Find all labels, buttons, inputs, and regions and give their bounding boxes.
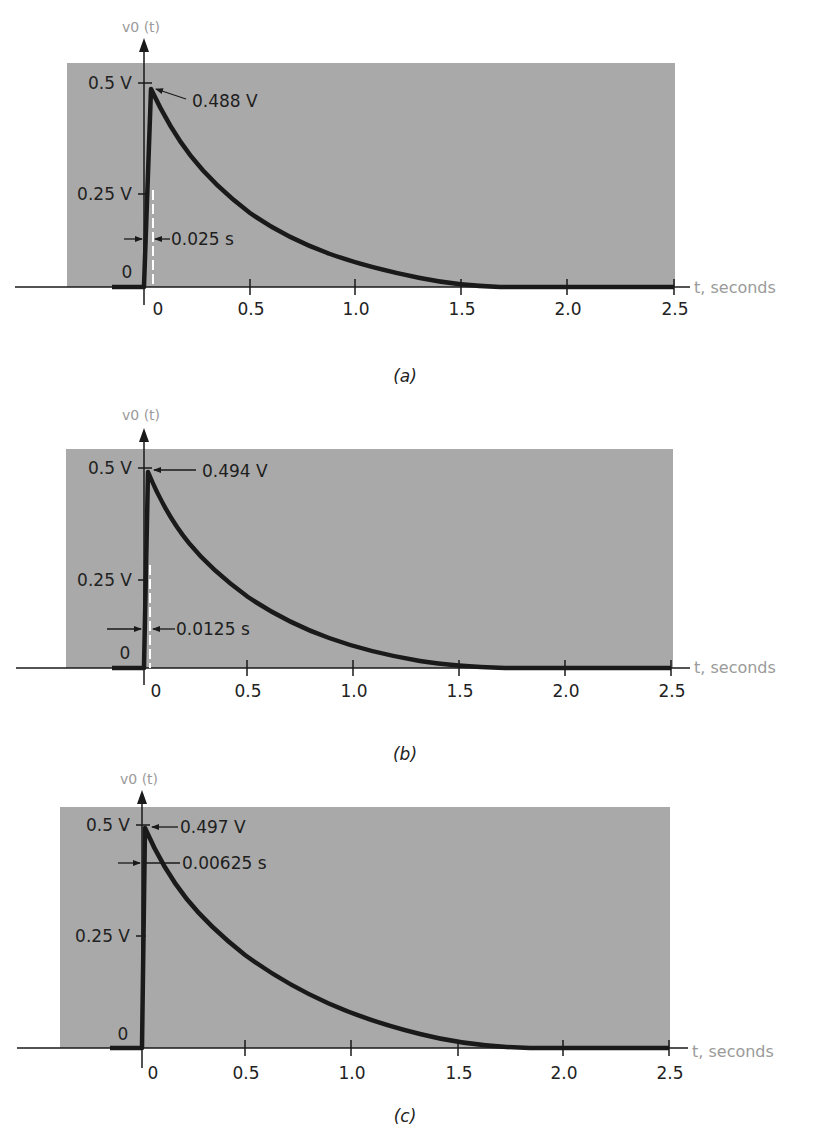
x-tick-label: 0 (151, 681, 162, 701)
panel-c: v0 (t) 0.5 V 0.25 V 0 0 0.5 1.0 1.5 2.0 … (17, 771, 774, 1126)
x-tick-label: 2.0 (552, 681, 579, 701)
y-tick-label: 0.5 V (88, 458, 132, 478)
panel-caption: (b) (393, 744, 417, 764)
y-tick-label: 0.25 V (77, 184, 132, 204)
x-tick-label: 1.0 (338, 1063, 365, 1083)
x-tick-label: 1.0 (342, 299, 369, 319)
x-tick-label: 0 (153, 299, 164, 319)
y-tick-label: 0.25 V (75, 926, 130, 946)
panel-caption: (a) (393, 366, 417, 386)
x-tick-label: 0.5 (237, 299, 264, 319)
x-tick-label: 0.5 (234, 681, 261, 701)
x-tick-label: 2.0 (550, 1063, 577, 1083)
y-axis-title: v0 (t) (122, 407, 160, 423)
y-tick-label: 0 (120, 643, 131, 663)
x-axis-title: t, seconds (692, 1042, 774, 1061)
panel-caption: (c) (394, 1106, 417, 1126)
peak-label: 0.497 V (180, 817, 246, 837)
plot-background (66, 449, 673, 668)
plot-background (67, 63, 675, 287)
x-tick-label: 2.5 (658, 681, 685, 701)
y-axis-arrow-icon (139, 428, 149, 442)
y-axis-title: v0 (t) (120, 771, 158, 787)
y-tick-label: 0 (118, 1024, 129, 1044)
y-axis-title: v0 (t) (122, 19, 160, 35)
x-tick-label: 1.0 (340, 681, 367, 701)
peak-label: 0.494 V (202, 461, 268, 481)
x-tick-label: 2.0 (554, 299, 581, 319)
y-tick-label: 0 (122, 262, 133, 282)
pulse-width-label: 0.00625 s (182, 853, 267, 873)
x-tick-label: 1.5 (448, 299, 475, 319)
x-tick-label: 0 (148, 1063, 159, 1083)
y-tick-label: 0.5 V (88, 73, 132, 93)
pulse-width-label: 0.0125 s (176, 619, 250, 639)
x-tick-label: 0.5 (232, 1063, 259, 1083)
x-axis-title: t, seconds (694, 278, 776, 297)
y-axis-arrow-icon (137, 790, 147, 804)
y-axis-arrow-icon (139, 38, 149, 52)
x-tick-label: 2.5 (656, 1063, 683, 1083)
peak-label: 0.488 V (192, 91, 258, 111)
y-tick-label: 0.5 V (86, 815, 130, 835)
y-tick-label: 0.25 V (77, 570, 132, 590)
x-tick-label: 2.5 (661, 299, 688, 319)
pulse-width-label: 0.025 s (171, 229, 234, 249)
panel-b: v0 (t) 0.5 V 0.25 V 0 0 0.5 1.0 1.5 2.0 … (16, 407, 776, 764)
panel-a: v0 (t) 0.5 V 0.25 V 0 0 0.5 1.0 1.5 2.0 … (15, 19, 776, 386)
figure: v0 (t) 0.5 V 0.25 V 0 0 0.5 1.0 1.5 2.0 … (0, 0, 813, 1144)
x-tick-label: 1.5 (446, 681, 473, 701)
x-axis-title: t, seconds (694, 658, 776, 677)
x-tick-label: 1.5 (445, 1063, 472, 1083)
